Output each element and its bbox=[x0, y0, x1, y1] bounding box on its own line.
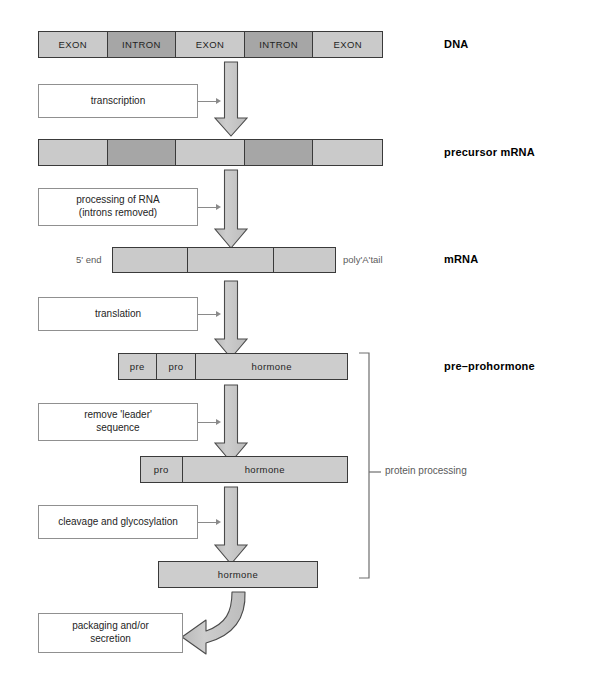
segment-exon-1: EXON bbox=[39, 32, 108, 57]
segment-pro: pro bbox=[157, 354, 197, 379]
stage-label-pre-prohormone: pre–prohormone bbox=[444, 360, 535, 372]
segment-exon-3 bbox=[313, 140, 382, 165]
bar-hormone: hormone bbox=[158, 561, 318, 588]
process-box-cleavage: cleavage and glycosylation bbox=[38, 505, 198, 539]
process-box-packaging: packaging and/or secretion bbox=[38, 613, 183, 653]
process-label-rna-processing-line2: (introns removed) bbox=[79, 207, 157, 220]
process-label-packaging-line1: packaging and/or bbox=[72, 620, 149, 633]
stage-label-mrna: mRNA bbox=[444, 253, 478, 265]
connector-arrowhead-transcription bbox=[216, 98, 221, 104]
segment-hormone: hormone bbox=[196, 354, 347, 379]
process-label-rna-processing-line1: processing of RNA bbox=[76, 194, 159, 207]
process-label-cleavage: cleavage and glycosylation bbox=[58, 516, 178, 529]
bar-precursor-mrna bbox=[38, 139, 383, 166]
label-five-prime-end: 5' end bbox=[76, 254, 102, 265]
connector-arrowhead-translation bbox=[216, 311, 221, 317]
connector-arrowhead-rna-processing bbox=[216, 204, 221, 210]
segment-exon-3 bbox=[274, 248, 335, 272]
label-poly-a-tail: poly'A'tail bbox=[343, 254, 383, 265]
connector-rna-processing bbox=[198, 207, 216, 208]
segment-hormone: hormone bbox=[183, 457, 347, 482]
process-box-remove-leader: remove 'leader' sequence bbox=[38, 403, 198, 441]
bar-pre-prohormone: pre pro hormone bbox=[118, 353, 348, 380]
stage-label-dna: DNA bbox=[444, 38, 468, 50]
segment-exon-1 bbox=[113, 248, 188, 272]
bar-mrna bbox=[112, 247, 336, 273]
bar-dna: EXON INTRON EXON INTRON EXON bbox=[38, 31, 383, 58]
process-label-remove-leader-line1: remove 'leader' bbox=[84, 409, 152, 422]
protein-processing-bracket bbox=[359, 353, 381, 578]
process-label-transcription: transcription bbox=[91, 95, 145, 108]
connector-cleavage bbox=[198, 522, 216, 523]
segment-intron-1: INTRON bbox=[108, 32, 177, 57]
connector-transcription bbox=[198, 101, 216, 102]
segment-exon-1 bbox=[39, 140, 108, 165]
segment-exon-2: EXON bbox=[176, 32, 245, 57]
process-box-rna-processing: processing of RNA (introns removed) bbox=[38, 188, 198, 226]
connector-remove-leader bbox=[198, 422, 216, 423]
segment-pre: pre bbox=[119, 354, 157, 379]
arrow-cleavage bbox=[215, 487, 247, 564]
segment-intron-2 bbox=[245, 140, 314, 165]
segment-exon-2 bbox=[188, 248, 273, 272]
segment-exon-3: EXON bbox=[313, 32, 382, 57]
process-box-transcription: transcription bbox=[38, 84, 198, 118]
diagram-canvas: EXON INTRON EXON INTRON EXON DNA transcr… bbox=[0, 0, 590, 677]
stage-label-precursor-mrna: precursor mRNA bbox=[444, 146, 535, 158]
segment-intron-1 bbox=[108, 140, 177, 165]
process-label-remove-leader-line2: sequence bbox=[96, 422, 139, 435]
connector-translation bbox=[198, 314, 216, 315]
bracket-label-protein-processing: protein processing bbox=[385, 465, 467, 476]
segment-exon-2 bbox=[176, 140, 245, 165]
arrow-packaging-curved bbox=[182, 592, 245, 654]
segment-pro: pro bbox=[141, 457, 183, 482]
process-label-translation: translation bbox=[95, 308, 141, 321]
bar-prohormone: pro hormone bbox=[140, 456, 348, 483]
connector-arrowhead-cleavage bbox=[216, 519, 221, 525]
segment-hormone: hormone bbox=[159, 562, 317, 587]
process-box-translation: translation bbox=[38, 297, 198, 331]
process-label-packaging-line2: secretion bbox=[90, 633, 131, 646]
segment-intron-2: INTRON bbox=[245, 32, 314, 57]
arrow-translation bbox=[215, 281, 247, 358]
connector-arrowhead-remove-leader bbox=[216, 419, 221, 425]
